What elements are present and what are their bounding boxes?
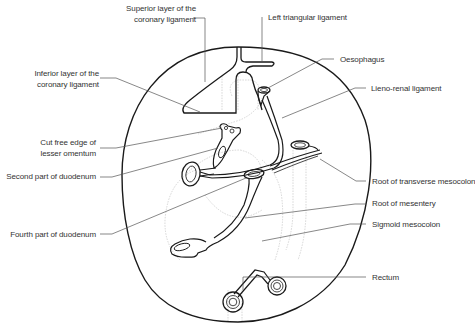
label-lieno-renal-ligament: Lieno-renal ligament xyxy=(371,83,442,94)
leader-oesophagus xyxy=(268,59,334,88)
leader-rectum xyxy=(243,277,366,290)
left-triangular-ligament-shape xyxy=(241,47,274,72)
leader-sigmoid xyxy=(262,224,366,241)
second-part-of-duodenum xyxy=(180,161,216,188)
label-rectum: Rectum xyxy=(372,272,399,283)
label-cut-free-edge: Cut free edge of lesser omentum xyxy=(20,137,96,159)
label-fourth-part-duodenum: Fourth part of duodenum xyxy=(0,229,96,240)
label-inferior-layer: Inferior layer of the coronary ligament xyxy=(20,68,99,90)
leader-cut-free-edge xyxy=(100,128,222,148)
label-line: coronary ligament xyxy=(20,79,99,90)
sigmoid-mesocolon xyxy=(234,270,286,297)
lesser-omentum-free-edge xyxy=(213,124,240,168)
root-of-mesentery xyxy=(171,168,265,257)
label-left-triangular-ligament: Left triangular ligament xyxy=(268,12,347,23)
oesophagus xyxy=(258,87,270,105)
bare-area-of-liver xyxy=(183,47,262,113)
label-line: Cut free edge of xyxy=(20,137,96,148)
label-oesophagus: Oesophagus xyxy=(340,54,384,65)
leader-root-transverse xyxy=(320,159,366,181)
label-superior-layer: Superior layer of the coronary ligament xyxy=(117,3,196,25)
label-line: coronary ligament xyxy=(117,14,196,25)
label-root-of-mesentery: Root of mesentery xyxy=(372,198,436,209)
label-line: lesser omentum xyxy=(20,148,96,159)
label-line: Superior layer of the xyxy=(117,3,196,14)
label-line: Inferior layer of the xyxy=(20,68,99,79)
label-second-part-duodenum: Second part of duodenum xyxy=(0,171,96,182)
leader-lieno-renal xyxy=(282,88,366,118)
label-sigmoid-mesocolon: Sigmoid mesocolon xyxy=(372,219,440,230)
leader-superior-layer xyxy=(193,18,205,82)
diagram-drawing xyxy=(0,0,475,325)
peritoneal-attachments-diagram: Superior layer of the coronary ligament … xyxy=(0,0,475,325)
rectum xyxy=(223,292,243,312)
leader-root-mesentery xyxy=(245,204,366,218)
leader-inferior-layer xyxy=(100,78,200,112)
leader-lines xyxy=(100,17,366,290)
label-root-transverse-mesocolon: Root of transverse mesocolon xyxy=(372,176,475,187)
